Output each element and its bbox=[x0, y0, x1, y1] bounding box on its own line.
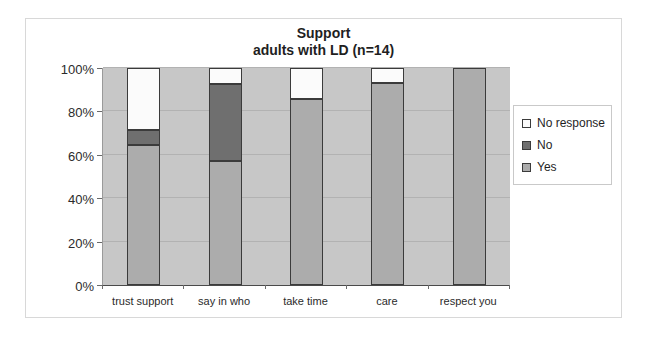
bar-trust-support bbox=[127, 68, 160, 285]
bar-take-time bbox=[290, 68, 323, 285]
bar-segment-yes bbox=[371, 83, 404, 285]
y-axis-tick-100 bbox=[97, 68, 102, 69]
legend-swatch-no bbox=[522, 141, 531, 150]
x-axis-label-0: trust support bbox=[112, 295, 173, 307]
legend-label-yes: Yes bbox=[537, 160, 557, 174]
x-axis-tick-1 bbox=[183, 285, 184, 289]
y-axis-tick-80 bbox=[97, 111, 102, 112]
x-axis-tick-2 bbox=[265, 285, 266, 289]
y-axis-label-0: 0% bbox=[26, 279, 94, 294]
legend-swatch-no-response bbox=[522, 119, 531, 128]
bar-segment-no-response bbox=[290, 68, 323, 99]
x-axis-label-4: respect you bbox=[440, 295, 497, 307]
plot-area bbox=[102, 68, 510, 285]
bar-segment-no-response bbox=[209, 68, 242, 83]
x-axis-label-1: say in who bbox=[198, 295, 250, 307]
bar-segment-yes bbox=[290, 99, 323, 285]
y-axis-label-80: 80% bbox=[26, 105, 94, 120]
x-axis-tick-4 bbox=[428, 285, 429, 289]
y-axis-tick-40 bbox=[97, 198, 102, 199]
y-axis-label-20: 20% bbox=[26, 235, 94, 250]
legend-item-no: No bbox=[522, 138, 611, 152]
chart-legend: No responseNoYes bbox=[513, 105, 612, 185]
bar-segment-yes bbox=[453, 68, 486, 285]
x-axis-label-2: take time bbox=[283, 295, 328, 307]
x-axis-label-3: care bbox=[376, 295, 397, 307]
x-axis-line bbox=[102, 285, 510, 286]
legend-item-no-response: No response bbox=[522, 116, 611, 130]
legend-item-yes: Yes bbox=[522, 160, 611, 174]
y-axis-tick-20 bbox=[97, 242, 102, 243]
scanned-figure: Support adults with LD (n=14) No respons… bbox=[0, 0, 648, 337]
legend-label-no: No bbox=[537, 138, 552, 152]
y-axis-label-60: 60% bbox=[26, 148, 94, 163]
bar-care bbox=[371, 68, 404, 285]
chart-title: Support adults with LD (n=14) bbox=[26, 25, 621, 59]
bar-segment-no bbox=[127, 130, 160, 145]
bar-segment-yes bbox=[127, 145, 160, 285]
y-axis-label-40: 40% bbox=[26, 192, 94, 207]
chart-frame: Support adults with LD (n=14) No respons… bbox=[25, 18, 622, 318]
bar-segment-yes bbox=[209, 161, 242, 285]
x-axis-tick-3 bbox=[346, 285, 347, 289]
bar-respect-you bbox=[453, 68, 486, 285]
chart-title-line1: Support bbox=[26, 25, 621, 42]
y-axis-tick-60 bbox=[97, 155, 102, 156]
bar-segment-no-response bbox=[127, 68, 160, 130]
y-axis-label-100: 100% bbox=[26, 62, 94, 77]
x-axis-tick-0 bbox=[102, 285, 103, 289]
x-axis-tick-5 bbox=[509, 285, 510, 289]
legend-swatch-yes bbox=[522, 163, 531, 172]
bar-say-in-who bbox=[209, 68, 242, 285]
bar-segment-no-response bbox=[371, 68, 404, 83]
legend-label-no-response: No response bbox=[537, 116, 605, 130]
chart-title-line2: adults with LD (n=14) bbox=[26, 42, 621, 59]
bar-segment-no bbox=[209, 84, 242, 161]
